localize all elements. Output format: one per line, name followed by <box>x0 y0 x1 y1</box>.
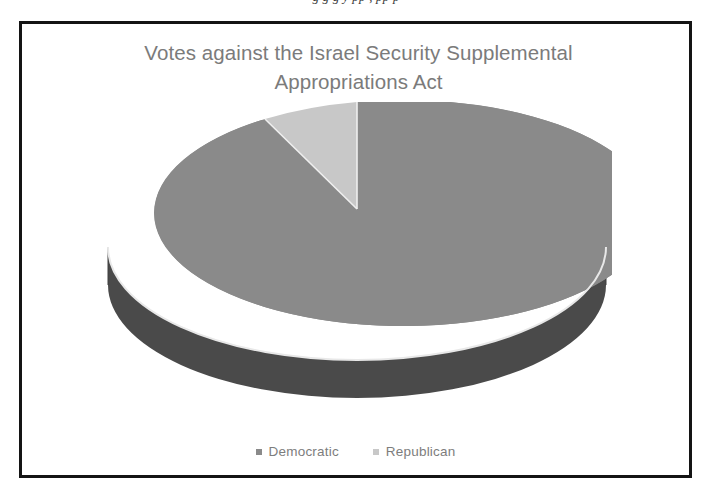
cutoff-caption-text: g g g y pp , pp p <box>0 0 712 5</box>
legend-label-republican: Republican <box>386 444 456 459</box>
legend-item-republican[interactable]: Republican <box>373 444 456 459</box>
legend-item-democratic[interactable]: Democratic <box>256 444 339 459</box>
legend-swatch-republican-icon <box>373 449 379 455</box>
legend-label-democratic: Democratic <box>269 444 339 459</box>
legend-swatch-democratic-icon <box>256 449 262 455</box>
chart-legend: Democratic Republican <box>22 444 689 459</box>
plot-area <box>22 24 689 475</box>
pie-chart-3d <box>102 102 612 412</box>
chart-frame: Votes against the Israel Security Supple… <box>19 21 692 478</box>
pie-disc-base <box>154 102 612 326</box>
